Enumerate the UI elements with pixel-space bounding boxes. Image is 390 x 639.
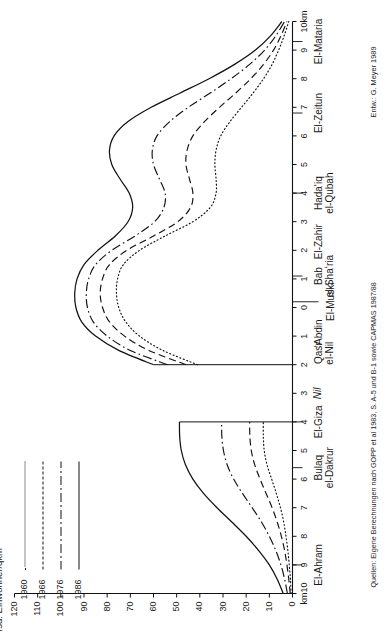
legend-year-1976: 1976: [54, 579, 64, 599]
series-line-1986: [179, 421, 283, 593]
y-axis-tick-60: 60: [147, 601, 157, 631]
district-label-hadaiqelqubah: Hadaʻiqel-Qubah: [312, 153, 334, 233]
legend-swatch-1966: [42, 461, 43, 569]
series-line-1976: [86, 21, 284, 364]
y-axis-tick-0: 0: [286, 601, 296, 631]
legend-swatch-1976: [60, 461, 61, 569]
x-axis-tick-km10: km10: [298, 577, 308, 609]
y-axis-tick-50: 50: [170, 601, 180, 631]
district-label-elahram: El-Ahram: [312, 524, 323, 604]
author-credit: Entw.: G. Meyer 1989: [368, 46, 377, 117]
y-axis-tick-90: 90: [78, 601, 88, 631]
x-axis-tick-9: 9: [298, 34, 308, 66]
chart-series-group: [74, 21, 290, 593]
x-axis-tick-10km: 10km: [298, 5, 308, 37]
legend-year-1966: 1966: [36, 579, 46, 599]
y-axis-tick-40: 40: [193, 601, 203, 631]
series-line-1960: [116, 21, 288, 364]
y-axis-tick-10: 10: [263, 601, 273, 631]
series-line-1986: [74, 21, 281, 364]
series-line-1966: [100, 21, 287, 364]
y-axis-tick-110: 110: [31, 601, 41, 631]
y-axis-tick-30: 30: [217, 601, 227, 631]
y-axis-tick-20: 20: [240, 601, 250, 631]
legend-swatch-1986: [78, 461, 79, 569]
figure-page: 0102030405060708090100110120 Tsd. Einwoh…: [0, 0, 390, 639]
y-axis-tick-70: 70: [124, 601, 134, 631]
x-axis-tick-5: 5: [298, 434, 308, 466]
x-axis-tick-8: 8: [298, 520, 308, 552]
legend-year-1960: 1960: [18, 579, 28, 599]
x-axis-tick-3: 3: [298, 205, 308, 237]
x-axis-tick-7: 7: [298, 491, 308, 523]
x-axis-tick-6: 6: [298, 119, 308, 151]
rotated-figure-canvas: 0102030405060708090100110120 Tsd. Einwoh…: [0, 0, 390, 639]
series-line-1976: [221, 421, 287, 593]
x-axis-tick-2: 2: [298, 348, 308, 380]
y-axis-tick-100: 100: [54, 601, 64, 631]
x-axis-tick-9: 9: [298, 548, 308, 580]
x-axis-tick-8: 8: [298, 62, 308, 94]
x-axis-tick-1: 1: [298, 320, 308, 352]
y-axis-title: Tsd. Einwohner/qkm: [0, 547, 3, 633]
legend-year-1986: 1986: [72, 579, 82, 599]
series-line-1960: [263, 421, 291, 593]
x-axis-tick-1: 1: [298, 262, 308, 294]
x-axis-tick-5: 5: [298, 148, 308, 180]
x-axis-tick-6: 6: [298, 463, 308, 495]
population-density-profile-chart: 0102030405060708090100110120 Tsd. Einwoh…: [0, 0, 390, 639]
legend-swatch-1960: [24, 461, 25, 569]
x-axis-tick-2: 2: [298, 234, 308, 266]
district-label-elzeitun: El-Zeitun: [312, 73, 323, 153]
y-axis-tick-120: 120: [8, 601, 18, 631]
x-axis-tick-0: 0: [298, 291, 308, 323]
district-label-elmataria: El-Mataria: [312, 1, 323, 81]
x-axis-tick-3: 3: [298, 377, 308, 409]
x-axis-tick-7: 7: [298, 91, 308, 123]
x-axis-tick-4: 4: [298, 177, 308, 209]
x-axis-tick-4: 4: [298, 405, 308, 437]
nile-gap-marker: [153, 364, 292, 421]
series-line-1966: [249, 421, 290, 593]
source-note: Quellen: Eigene Berechnungen nach GOPP e…: [368, 282, 377, 587]
y-axis-tick-80: 80: [101, 601, 111, 631]
